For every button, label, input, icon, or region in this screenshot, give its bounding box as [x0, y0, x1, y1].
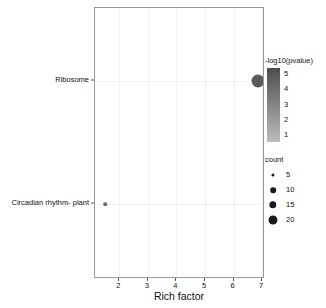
gridline-vertical-4 [176, 8, 177, 277]
size-legend-dot-15 [269, 201, 276, 208]
x-axis-tick-label-5: 5 [202, 282, 206, 290]
color-legend-title: -log10(pvalue) [265, 57, 326, 65]
size-legend-label-10: 10 [286, 186, 294, 194]
size-legend-dot-5 [271, 173, 274, 176]
size-legend: count 5101520 [266, 156, 326, 228]
size-legend-row: 5 [266, 168, 326, 183]
colorbar-wrap: 54321 [266, 68, 324, 142]
x-axis-tick-label-7: 7 [259, 282, 263, 290]
size-legend-rows: 5101520 [266, 168, 326, 228]
plot-panel [94, 7, 264, 278]
color-legend: -log10(pvalue) 54321 [266, 57, 326, 142]
colorbar [267, 68, 280, 142]
x-axis-tick-label-3: 3 [145, 282, 149, 290]
gridline-vertical-6 [234, 8, 235, 277]
data-point[interactable] [251, 75, 264, 88]
size-legend-row: 10 [266, 183, 326, 198]
x-axis-title: Rich factor [94, 291, 264, 302]
size-legend-title: count [265, 156, 326, 164]
x-axis-tick-label-2: 2 [116, 282, 120, 290]
gridline-vertical-2 [119, 8, 120, 277]
x-axis-tick-label-4: 4 [173, 282, 177, 290]
y-axis-label-ribosome: Ribosome [55, 76, 94, 84]
data-point[interactable] [103, 203, 107, 207]
gridline-vertical-7 [262, 8, 263, 277]
size-legend-dot-20 [269, 216, 278, 225]
size-legend-row: 20 [266, 213, 326, 228]
color-legend-tick-2: 2 [284, 116, 288, 124]
gridline-vertical-3 [148, 8, 149, 277]
x-axis-tick-label-6: 6 [230, 282, 234, 290]
gridline-vertical-5 [205, 8, 206, 277]
size-legend-dot-10 [270, 187, 276, 193]
color-legend-tick-4: 4 [284, 86, 288, 94]
chart-figure: RibosomeCircadian rhythm- plant 234567 R… [0, 0, 326, 308]
size-legend-label-15: 15 [286, 201, 294, 209]
size-legend-row: 15 [266, 198, 326, 213]
size-legend-label-20: 20 [286, 216, 294, 224]
color-legend-tick-5: 5 [284, 71, 288, 79]
color-legend-tick-1: 1 [284, 131, 288, 139]
size-legend-label-5: 5 [286, 171, 290, 179]
gridline-horizontal [95, 204, 263, 205]
gridline-horizontal [95, 81, 263, 82]
color-legend-tick-3: 3 [284, 101, 288, 109]
y-axis-label-circadian-rhythm-plant: Circadian rhythm- plant [11, 200, 94, 208]
